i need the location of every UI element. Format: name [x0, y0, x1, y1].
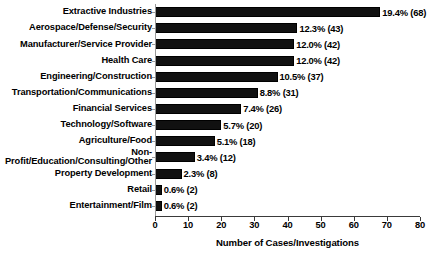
y-axis-tick: [152, 77, 155, 78]
x-axis-tick-label: 80: [415, 220, 425, 230]
chart-row: Extractive Industries19.4% (68): [0, 4, 432, 20]
bar-value-label: 12.3% (43): [299, 23, 343, 34]
bar-container: 19.4% (68): [155, 4, 420, 20]
category-label: Transportation/Communications: [0, 88, 152, 98]
y-axis-tick: [152, 190, 155, 191]
x-axis-title: Number of Cases/Investigations: [155, 237, 420, 248]
x-axis-tick-label: 40: [282, 220, 292, 230]
bar-value-label: 3.4% (12): [197, 152, 236, 163]
category-label: Health Care: [0, 56, 152, 66]
bar: [155, 104, 241, 114]
chart-row: Entertainment/Film0.6% (2): [0, 198, 432, 214]
bar-container: 5.7% (20): [155, 117, 420, 133]
bar-container: 7.4% (26): [155, 101, 420, 117]
y-axis-tick: [152, 141, 155, 142]
category-label: Property Development: [0, 169, 152, 179]
bar-value-label: 0.6% (2): [164, 200, 198, 211]
x-axis-tick-label: 0: [152, 220, 157, 230]
category-label: Engineering/Construction: [0, 72, 152, 82]
bar-container: 10.5% (37): [155, 69, 420, 85]
category-label: Entertainment/Film: [0, 201, 152, 211]
y-axis-tick: [152, 174, 155, 175]
category-label: Aerospace/Defense/Security: [0, 23, 152, 33]
bar: [155, 136, 215, 146]
bar-container: 0.6% (2): [155, 182, 420, 198]
bar-container: 3.4% (12): [155, 149, 420, 165]
bar-value-label: 2.3% (8): [184, 168, 218, 179]
horizontal-bar-chart: Extractive Industries19.4% (68)Aerospace…: [0, 0, 432, 259]
bar-container: 5.1% (18): [155, 133, 420, 149]
y-axis-tick: [152, 109, 155, 110]
bar-container: 0.6% (2): [155, 198, 420, 214]
chart-row: Engineering/Construction10.5% (37): [0, 69, 432, 85]
bar-value-label: 19.4% (68): [382, 7, 426, 18]
y-axis-tick: [152, 44, 155, 45]
x-axis-tick-label: 30: [249, 220, 259, 230]
bar-value-label: 12.0% (42): [296, 39, 340, 50]
bar-container: 12.3% (43): [155, 20, 420, 36]
category-label: Agriculture/Food: [0, 136, 152, 146]
bar-value-label: 7.4% (26): [243, 103, 282, 114]
bar: [155, 7, 380, 17]
chart-row: Non- Profit/Education/Consulting/Other3.…: [0, 149, 432, 165]
chart-row: Retail0.6% (2): [0, 182, 432, 198]
category-label: Technology/Software: [0, 120, 152, 130]
bar: [155, 23, 297, 33]
bar-container: 2.3% (8): [155, 166, 420, 182]
bar: [155, 88, 258, 98]
bar-container: 12.0% (42): [155, 52, 420, 68]
chart-row: Health Care12.0% (42): [0, 52, 432, 68]
category-label: Non- Profit/Education/Consulting/Other: [0, 148, 152, 167]
bar-value-label: 5.1% (18): [217, 136, 256, 147]
bar-container: 12.0% (42): [155, 36, 420, 52]
category-label: Extractive Industries: [0, 7, 152, 17]
chart-row: Manufacturer/Service Provider12.0% (42): [0, 36, 432, 52]
bar-value-label: 12.0% (42): [296, 55, 340, 66]
x-axis-tick-label: 60: [349, 220, 359, 230]
chart-row: Property Development2.3% (8): [0, 166, 432, 182]
bar: [155, 120, 221, 130]
x-axis-tick-label: 10: [183, 220, 193, 230]
chart-plot-area: Extractive Industries19.4% (68)Aerospace…: [0, 4, 432, 214]
bar: [155, 169, 182, 179]
bar-container: 8.8% (31): [155, 85, 420, 101]
bar-value-label: 0.6% (2): [164, 184, 198, 195]
chart-row: Transportation/Communications8.8% (31): [0, 85, 432, 101]
bar: [155, 152, 195, 162]
category-label: Financial Services: [0, 104, 152, 114]
bar: [155, 72, 278, 82]
category-label: Retail: [0, 185, 152, 195]
x-axis-tick-label: 50: [316, 220, 326, 230]
y-axis-tick: [152, 93, 155, 94]
chart-row: Aerospace/Defense/Security12.3% (43): [0, 20, 432, 36]
bar: [155, 39, 294, 49]
y-axis-tick: [152, 125, 155, 126]
bar: [155, 56, 294, 66]
y-axis-tick: [152, 157, 155, 158]
y-axis-line: [155, 4, 156, 216]
y-axis-tick: [152, 61, 155, 62]
y-axis-tick: [152, 12, 155, 13]
chart-row: Technology/Software5.7% (20): [0, 117, 432, 133]
category-label: Manufacturer/Service Provider: [0, 40, 152, 50]
bar-value-label: 8.8% (31): [260, 87, 299, 98]
chart-row: Financial Services7.4% (26): [0, 101, 432, 117]
bar-value-label: 10.5% (37): [280, 71, 324, 82]
bar-value-label: 5.7% (20): [223, 120, 262, 131]
x-axis-tick-label: 20: [216, 220, 226, 230]
x-axis-tick-label: 70: [382, 220, 392, 230]
y-axis-tick: [152, 206, 155, 207]
y-axis-tick: [152, 28, 155, 29]
